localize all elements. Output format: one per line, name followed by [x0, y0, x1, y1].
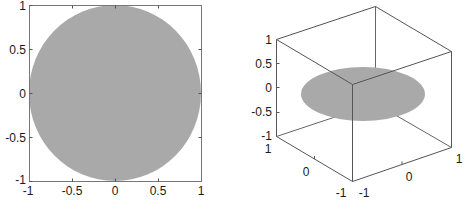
z-tick-labels: 1 0.5 0 -0.5 -1 — [251, 33, 272, 143]
z-tick-label: 0.5 — [255, 57, 272, 71]
y-tick-label: 1 — [265, 142, 272, 156]
figure-canvas: 1 0.5 0 -0.5 -1 -1 -0.5 0 0.5 1 — [0, 0, 470, 207]
x-tick-label: 1 — [456, 152, 463, 166]
y-tick-label: -1 — [336, 186, 347, 200]
x-tick-label: 0 — [112, 184, 119, 198]
left-y-tick-labels: 1 0.5 0 -0.5 -1 — [5, 0, 26, 187]
x-axis-tick-labels: -1 0 1 — [359, 152, 463, 200]
y-tick-label: 0.5 — [9, 43, 26, 57]
disk-3d — [301, 67, 425, 121]
x-tick-label: 0 — [406, 170, 413, 184]
disk-2d — [29, 5, 201, 181]
z-tick-label: 0 — [265, 81, 272, 95]
y-tick-label: 1 — [19, 0, 26, 13]
left-x-tick-labels: -1 -0.5 0 0.5 1 — [23, 184, 205, 198]
z-tick-label: -1 — [261, 129, 272, 143]
x-tick-label: 1 — [198, 184, 205, 198]
x-tick-label: -1 — [359, 186, 370, 200]
right-axes-3d: 1 0.5 0 -0.5 -1 1 0 -1 -1 0 1 — [251, 7, 462, 201]
x-tick-label: 0.5 — [150, 184, 167, 198]
y-tick-label: -0.5 — [5, 131, 26, 145]
z-tick-label: -0.5 — [251, 105, 272, 119]
xy-ticks — [315, 156, 403, 165]
y-tick-label: 0 — [303, 165, 310, 179]
y-tick-label: 0 — [19, 87, 26, 101]
left-axes: 1 0.5 0 -0.5 -1 -1 -0.5 0 0.5 1 — [5, 0, 204, 198]
x-tick-label: -1 — [23, 184, 34, 198]
x-tick-label: -0.5 — [62, 184, 83, 198]
z-tick-label: 1 — [265, 33, 272, 47]
